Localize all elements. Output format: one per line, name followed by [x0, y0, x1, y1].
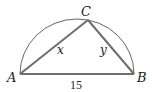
- side-label-ab: 15: [70, 78, 82, 92]
- side-label-y: y: [99, 43, 107, 57]
- vertex-label-b: B: [136, 70, 147, 85]
- vertex-label-a: A: [6, 70, 16, 85]
- semicircle-arc: [20, 19, 134, 74]
- vertex-label-c: C: [81, 4, 91, 19]
- semicircle-triangle-diagram: C A B x y 15: [0, 0, 152, 92]
- diagram-canvas: C A B x y 15: [0, 0, 152, 92]
- side-label-x: x: [57, 43, 64, 57]
- side-ac: [20, 20, 88, 74]
